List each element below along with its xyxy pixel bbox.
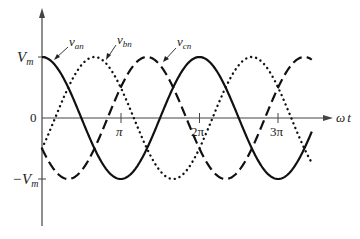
van-label: van bbox=[69, 34, 84, 51]
vbn-label: vbn bbox=[117, 32, 132, 49]
y-label-neg-vm: −Vm bbox=[12, 171, 39, 189]
y-axis-arrow-icon bbox=[39, 8, 45, 18]
x-axis-label: ωt bbox=[336, 110, 351, 125]
x-label-3pi: 3π bbox=[270, 124, 284, 139]
y-label-vm: Vm bbox=[17, 49, 33, 67]
three-phase-voltage-chart: Vm 0 −Vm π 2π 3π ωt van vbn vcn bbox=[0, 0, 360, 239]
vcn-label: vcn bbox=[177, 34, 192, 51]
y-label-zero: 0 bbox=[30, 110, 37, 125]
x-axis-arrow-icon bbox=[323, 115, 333, 121]
x-label-pi: π bbox=[116, 124, 123, 139]
